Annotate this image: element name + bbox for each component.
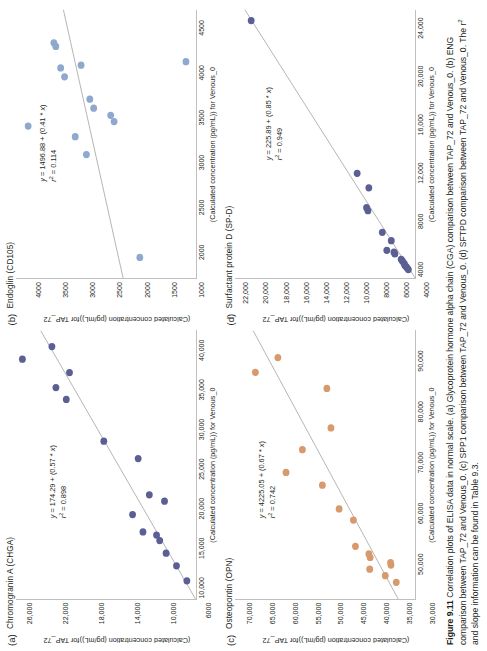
panel-c-x-axis-title: (Calculated concentration (pg/mL)) for V… [427, 331, 437, 600]
panel-d-x-ticks: 4000800012,00016,00020,00024,000 [416, 10, 427, 279]
data-point [66, 369, 73, 376]
panel-c-y-axis: (Calculated concentration (pg/mL)) for T… [235, 600, 436, 645]
data-point [107, 112, 114, 119]
x-tick-label: 90,000 [417, 350, 424, 371]
data-point [19, 355, 26, 362]
y-tick-label: 6000 [205, 603, 212, 619]
panel-a-y-axis-title: (Calculated concentration (pg/mL)) for T… [16, 636, 217, 645]
y-tick-label: 35,000 [406, 603, 413, 624]
x-tick-label: 2000 [198, 245, 205, 261]
data-point [140, 528, 147, 535]
panel-c-canvas: y = 4225.05 + (0.67 * x)r2 = 0.742 [235, 331, 416, 600]
panel-d-y-axis: (Calculated concentration (pg/mL)) for T… [235, 279, 436, 324]
y-tick-label: 22,000 [62, 603, 69, 624]
data-point [379, 229, 386, 236]
data-point [86, 96, 93, 103]
panel-b-y-axis-title: (Calculated concentration (pg/mL)) for T… [16, 315, 217, 324]
x-tick-label: 25,000 [198, 458, 205, 479]
y-tick-label: 18,000 [97, 603, 104, 624]
y-tick-label: 1000 [197, 282, 204, 298]
panel-a-x-axis-title: (Calculated concentration (pg/mL)) for V… [208, 331, 218, 600]
data-point [367, 565, 374, 572]
x-tick-label: 10,000 [198, 577, 205, 598]
regression-line [41, 331, 196, 599]
x-tick-label: 40,000 [198, 340, 205, 361]
x-tick-label: 16,000 [417, 114, 424, 135]
panel-d-canvas: y = 225.89 + (0.85 * x)r2 = 0.949 [235, 10, 416, 279]
data-point [90, 105, 97, 112]
data-point [299, 446, 306, 453]
y-tick-label: 14,000 [133, 603, 140, 624]
data-point [136, 254, 143, 261]
panel-c-y-axis-title: (Calculated concentration (pg/mL)) for T… [235, 636, 436, 645]
data-point [129, 511, 136, 518]
y-tick-label: 3000 [89, 282, 96, 298]
regression-line [253, 331, 398, 599]
y-tick-label: 26,000 [26, 603, 33, 624]
panel-d: (d) Surfactant protein D (SP-D) (Calcula… [223, 6, 442, 327]
x-tick-label: 60,000 [417, 503, 424, 524]
data-point [388, 237, 395, 244]
data-point [78, 62, 85, 69]
data-point [25, 123, 32, 130]
x-tick-label: 35,000 [198, 379, 205, 400]
y-tick-label: 30,000 [428, 603, 435, 624]
y-tick-label: 50,000 [337, 603, 344, 624]
panel-b-title: Endoglin (CD105) [6, 10, 15, 309]
x-tick-label: 30,000 [198, 419, 205, 440]
x-tick-label: 4500 [198, 20, 205, 36]
data-point [324, 385, 331, 392]
y-tick-label: 3500 [61, 282, 68, 298]
data-point [252, 368, 259, 375]
data-point [350, 516, 357, 523]
data-point [161, 497, 168, 504]
figure-caption: Figure 9.11 Correlation plots of ELISA d… [443, 0, 487, 651]
y-tick-label: 18,000 [282, 282, 289, 303]
y-tick-label: 2500 [116, 282, 123, 298]
data-point [391, 249, 398, 256]
data-point [319, 481, 326, 488]
x-tick-label: 12,000 [417, 162, 424, 183]
data-point [57, 64, 64, 71]
panel-a-canvas: y = 174.29 + (0.57 * x)r2 = 0.898 [16, 331, 197, 600]
panel-c-y-ticks: 30,00035,00040,00045,00050,00055,00060,0… [235, 600, 436, 636]
regression-line [63, 10, 123, 278]
x-tick-label: 70,000 [417, 452, 424, 473]
data-point [384, 247, 391, 254]
data-point [100, 437, 107, 444]
x-tick-label: 24,000 [417, 17, 424, 38]
x-tick-label: 3000 [198, 155, 205, 171]
y-tick-label: 70,000 [246, 603, 253, 624]
y-tick-label: 22,000 [242, 282, 249, 303]
panel-b: (b) Endoglin (CD105) (Calculated concent… [4, 6, 223, 327]
y-tick-label: 10,000 [363, 282, 370, 303]
panel-a-x-ticks: 10,00015,00020,00025,00030,00035,00040,0… [197, 331, 208, 600]
y-tick-label: 40,000 [383, 603, 390, 624]
figure-rotator: (a) Chromogranin A (CHGA) (Calculated co… [0, 0, 487, 651]
data-point [366, 550, 373, 557]
data-point [72, 133, 79, 140]
figure-number: Figure 9.11 [445, 600, 455, 645]
data-point [328, 424, 335, 431]
data-point [50, 39, 57, 46]
data-point [61, 73, 68, 80]
panel-a-y-ticks: 600010,00014,00018,00022,00026,000 [16, 600, 217, 636]
y-tick-label: 55,000 [314, 603, 321, 624]
y-tick-label: 65,000 [268, 603, 275, 624]
data-point [146, 491, 153, 498]
panel-c-title: Osteopontin (OPN) [225, 331, 234, 630]
data-point [387, 559, 394, 566]
x-tick-label: 15,000 [198, 538, 205, 559]
panel-c-svg [235, 331, 415, 599]
panel-b-x-ticks: 200025003000350040004500 [197, 10, 208, 279]
y-tick-label: 16,000 [302, 282, 309, 303]
panel-b-y-axis: (Calculated concentration (pg/mL)) for T… [16, 279, 217, 324]
data-point [363, 204, 370, 211]
data-point [398, 256, 405, 263]
panel-b-svg [16, 10, 196, 278]
data-point [135, 455, 142, 462]
y-tick-label: 4000 [423, 282, 430, 298]
data-point [163, 549, 170, 556]
data-point [393, 578, 400, 585]
x-tick-label: 50,000 [417, 553, 424, 574]
